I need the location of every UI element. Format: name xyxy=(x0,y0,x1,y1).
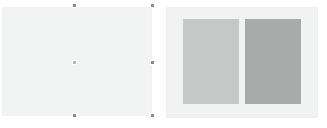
selection-handle-top-right[interactable] xyxy=(150,3,155,8)
content-placeholder-left[interactable] xyxy=(183,19,239,104)
selection-handle-center[interactable] xyxy=(72,60,77,65)
selection-handle-bottom-right[interactable] xyxy=(150,113,155,118)
editor-canvas[interactable] xyxy=(0,0,327,128)
content-placeholder-right[interactable] xyxy=(245,19,301,104)
selection-handle-top-center[interactable] xyxy=(72,3,77,8)
slide-left[interactable] xyxy=(2,7,152,116)
selection-handle-bottom-center[interactable] xyxy=(72,113,77,118)
selection-handle-middle-right[interactable] xyxy=(150,60,155,65)
slide-right[interactable] xyxy=(166,7,318,118)
